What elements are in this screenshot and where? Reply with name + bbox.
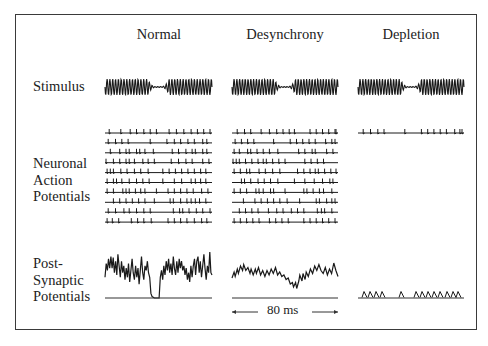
scale-bar-label: 80 ms	[267, 302, 298, 318]
arrow-right-icon	[334, 310, 338, 314]
waveform-plots	[0, 0, 488, 346]
stimulus-waveform-desynchrony	[232, 79, 338, 95]
arrow-left-icon	[232, 310, 236, 314]
psp-trace-normal	[105, 252, 212, 298]
stimulus-waveform-normal	[105, 79, 212, 95]
psp-depletion-bumps	[362, 292, 461, 298]
stimulus-waveform-depletion	[358, 79, 464, 95]
action-potential-spikes	[233, 159, 325, 164]
psp-trace-desynchrony	[232, 263, 338, 289]
